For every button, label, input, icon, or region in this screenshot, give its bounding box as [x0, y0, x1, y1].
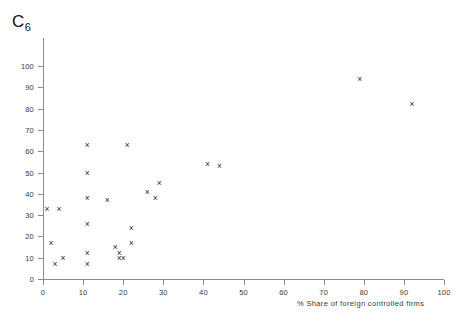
data-point: × [57, 204, 62, 213]
data-point: × [85, 168, 90, 177]
y-tick-mark [38, 215, 43, 216]
y-tick-mark [38, 151, 43, 152]
plot-area: 0102030405060708090100 01020304050607080… [0, 0, 456, 322]
y-axis-line [43, 38, 44, 280]
chart-page: C6 0102030405060708090100 01020304050607… [0, 0, 456, 322]
x-tick-label: 80 [352, 288, 376, 297]
data-point: × [53, 260, 58, 269]
y-tick-label: 80 [10, 105, 34, 114]
x-tick-mark [444, 280, 445, 285]
data-point: × [129, 239, 134, 248]
data-point: × [49, 239, 54, 248]
x-tick-mark [83, 280, 84, 285]
data-point: × [129, 224, 134, 233]
y-tick-label: 0 [10, 275, 34, 284]
x-tick-mark [123, 280, 124, 285]
y-tick-mark [38, 236, 43, 237]
x-tick-label: 50 [232, 288, 256, 297]
x-axis-title: % Share of foreign controlled firms [297, 299, 424, 308]
y-tick-mark [38, 130, 43, 131]
data-point: × [85, 141, 90, 150]
x-tick-label: 0 [31, 288, 55, 297]
x-tick-mark [284, 280, 285, 285]
x-tick-label: 30 [151, 288, 175, 297]
data-point: × [85, 194, 90, 203]
data-point: × [121, 253, 126, 262]
y-tick-mark [38, 109, 43, 110]
data-point: × [85, 260, 90, 269]
data-point: × [157, 179, 162, 188]
x-tick-label: 10 [71, 288, 95, 297]
x-tick-mark [404, 280, 405, 285]
y-tick-label: 100 [10, 62, 34, 71]
y-tick-mark [38, 258, 43, 259]
data-point: × [105, 196, 110, 205]
x-tick-label: 70 [312, 288, 336, 297]
y-tick-label: 10 [10, 254, 34, 263]
data-point: × [85, 249, 90, 258]
data-point: × [153, 194, 158, 203]
x-tick-mark [324, 280, 325, 285]
y-tick-label: 30 [10, 211, 34, 220]
y-tick-label: 50 [10, 169, 34, 178]
x-tick-mark [364, 280, 365, 285]
y-tick-mark [38, 66, 43, 67]
x-tick-mark [43, 280, 44, 285]
y-tick-label: 20 [10, 232, 34, 241]
data-point: × [205, 160, 210, 169]
x-tick-label: 60 [272, 288, 296, 297]
y-tick-label: 90 [10, 83, 34, 92]
data-point: × [125, 141, 130, 150]
data-point: × [357, 75, 362, 84]
y-tick-mark [38, 87, 43, 88]
y-tick-mark [38, 194, 43, 195]
data-point: × [85, 219, 90, 228]
y-tick-mark [38, 173, 43, 174]
x-tick-label: 100 [432, 288, 456, 297]
x-tick-label: 20 [111, 288, 135, 297]
x-tick-mark [203, 280, 204, 285]
x-tick-mark [163, 280, 164, 285]
data-point: × [45, 204, 50, 213]
x-tick-label: 90 [392, 288, 416, 297]
y-tick-label: 70 [10, 126, 34, 135]
data-point: × [145, 187, 150, 196]
y-tick-label: 60 [10, 147, 34, 156]
y-tick-label: 40 [10, 190, 34, 199]
x-tick-label: 40 [191, 288, 215, 297]
data-point: × [409, 100, 414, 109]
data-point: × [217, 162, 222, 171]
x-tick-mark [244, 280, 245, 285]
data-point: × [61, 253, 66, 262]
